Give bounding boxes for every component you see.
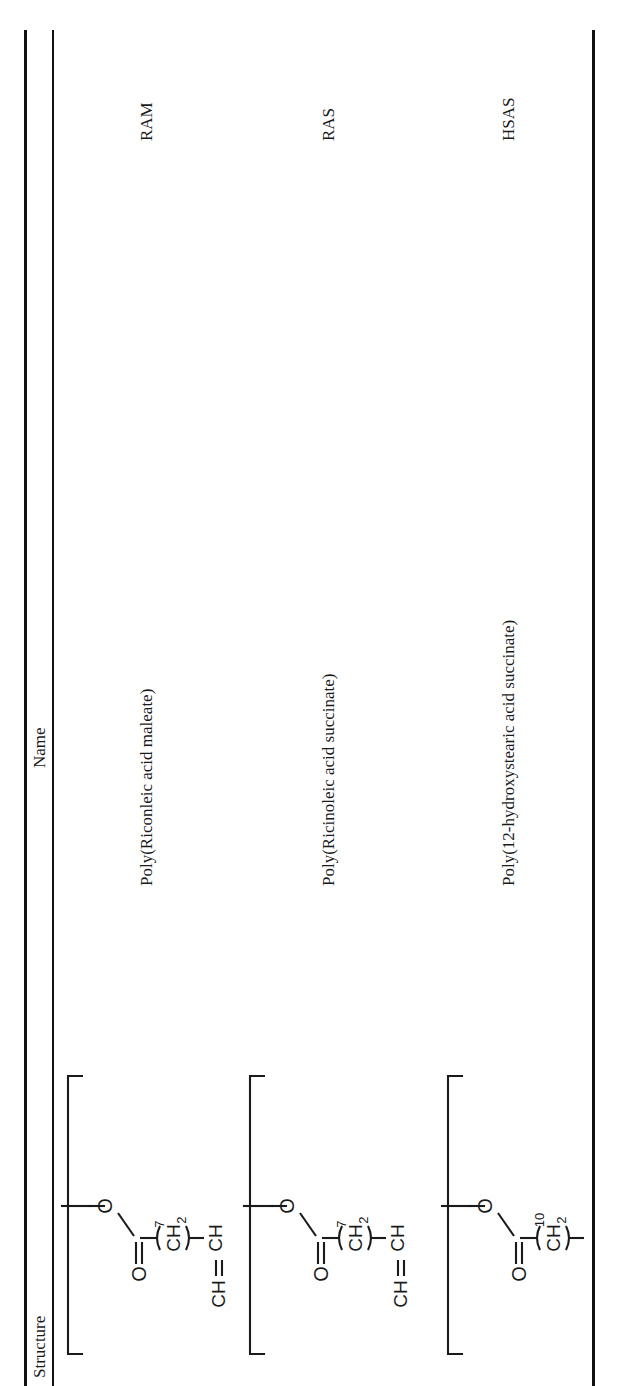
svg-text:CH: CH: [205, 1224, 226, 1251]
table-header-rule: [52, 30, 54, 1386]
polymer-abbreviation: RAM: [136, 102, 158, 141]
svg-text:CH: CH: [163, 1224, 184, 1251]
polymer-name: Poly(12-hydroxystearic acid succinate): [498, 446, 520, 886]
svg-text:CH: CH: [345, 1224, 366, 1251]
svg-text:CH: CH: [390, 1280, 411, 1307]
svg-text:O: O: [94, 1198, 116, 1214]
rotated-table-stage: Structure Name O: [0, 0, 621, 1386]
svg-text:2: 2: [554, 1216, 569, 1223]
table-row: O O: [58, 30, 238, 1386]
svg-text:2: 2: [174, 1216, 189, 1223]
polymer-abbreviation: RAS: [318, 108, 340, 141]
table-row: O O 7 CH 2 CH: [240, 30, 420, 1386]
structure-cell-ram: O O: [60, 906, 236, 1376]
svg-text:CH: CH: [387, 1224, 408, 1251]
polymer-name: Poly(Ricinoleic acid succinate): [318, 446, 340, 886]
table-top-rule: [24, 30, 27, 1386]
svg-text:2: 2: [356, 1216, 371, 1223]
structure-cell-hsas: O O 10 CH 2: [422, 906, 598, 1376]
ras-structure-diagram: O O 7 CH 2 CH: [242, 906, 418, 1376]
polymer-name: Poly(Riconleic acid maleate): [136, 446, 158, 886]
svg-text:O: O: [276, 1198, 298, 1214]
svg-text:O: O: [474, 1198, 496, 1214]
svg-text:O: O: [508, 1266, 530, 1282]
svg-text:O: O: [310, 1266, 332, 1282]
hsas-structure-diagram: O O 10 CH 2: [422, 906, 598, 1376]
column-header-structure: Structure: [28, 1316, 52, 1378]
column-header-name: Name: [28, 727, 52, 768]
svg-text:O: O: [128, 1266, 150, 1282]
structure-cell-ras: O O 7 CH 2 CH: [242, 906, 418, 1376]
svg-text:CH: CH: [543, 1224, 564, 1251]
ram-structure-diagram: O O: [60, 906, 236, 1376]
svg-text:CH: CH: [208, 1280, 229, 1307]
table-row: O O 10 CH 2: [420, 30, 600, 1386]
page-canvas: Structure Name O: [0, 0, 621, 1386]
polymer-abbreviation: HSAS: [498, 98, 520, 141]
